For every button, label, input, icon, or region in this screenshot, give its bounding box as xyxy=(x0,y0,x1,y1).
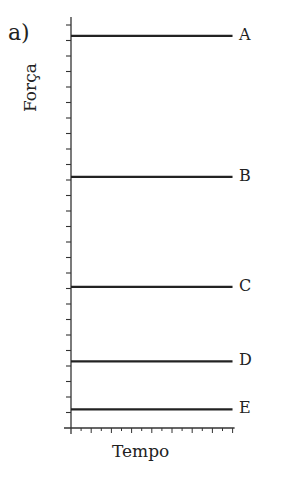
series-label-d: D xyxy=(239,352,252,368)
series-label-c: C xyxy=(239,278,251,294)
series-label-a: A xyxy=(239,27,251,43)
series-label-e: E xyxy=(239,400,251,416)
series-label-b: B xyxy=(239,168,251,184)
